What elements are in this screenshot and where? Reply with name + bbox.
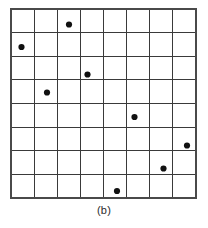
grid-lines <box>11 9 196 198</box>
data-point-marker <box>84 71 90 77</box>
figure-caption: (b) <box>0 203 208 217</box>
data-point-marker <box>114 188 120 194</box>
data-points <box>18 21 190 194</box>
data-point-marker <box>184 142 190 148</box>
grid-chart <box>0 0 208 228</box>
data-point-marker <box>18 44 24 50</box>
data-point-marker <box>160 165 166 171</box>
figure-panel: (b) <box>0 0 208 228</box>
data-point-marker <box>131 114 137 120</box>
data-point-marker <box>66 21 72 27</box>
data-point-marker <box>44 89 50 95</box>
